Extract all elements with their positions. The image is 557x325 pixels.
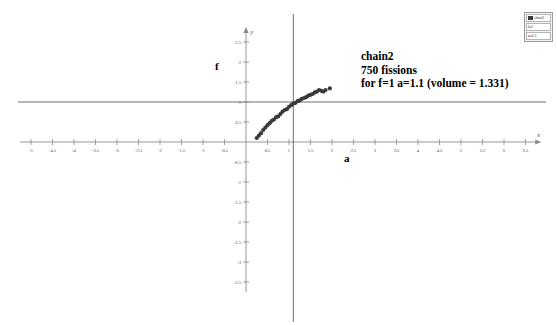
- y-tick-label: -3.5: [234, 280, 242, 285]
- legend-label-f: f=1: [528, 24, 533, 30]
- annotation-block: chain2 750 fissions for f=1 a=1.1 (volum…: [361, 50, 509, 91]
- y-axis-name: y: [250, 29, 254, 35]
- y-tick-label: -2.5: [234, 240, 242, 245]
- x-tick-label: 0.5: [265, 148, 271, 153]
- x-tick-label: 1: [288, 148, 291, 153]
- legend-label-a: a=1.1: [528, 33, 537, 39]
- y-tick-label: 2: [239, 60, 242, 65]
- x-axis-title: a: [344, 152, 350, 164]
- x-tick-label: 6.5: [523, 148, 529, 153]
- y-tick-label: -1: [237, 180, 242, 185]
- x-tick-label: 6: [503, 148, 506, 153]
- x-tick-label: 1.5: [308, 148, 314, 153]
- y-axis-arrow-icon: [243, 27, 248, 33]
- x-tick-label: -5: [29, 148, 34, 153]
- y-tick-label: 1.5: [235, 80, 241, 85]
- x-tick-label: -0.5: [221, 148, 229, 153]
- x-tick-label: -1.5: [178, 148, 186, 153]
- x-tick-label: -2: [158, 148, 163, 153]
- annotation-line-3: for f=1 a=1.1 (volume = 1.331): [361, 77, 509, 91]
- legend-box[interactable]: chain2 f=1 a=1.1: [524, 12, 553, 42]
- annotation-line-1: chain2: [361, 50, 509, 64]
- x-tick-label: -2.5: [135, 148, 143, 153]
- x-axis-name: x: [536, 132, 540, 138]
- x-tick-label: -3: [115, 148, 120, 153]
- x-tick-label: -1: [201, 148, 206, 153]
- y-tick-label: 2.5: [235, 40, 241, 45]
- x-tick-label: 3: [374, 148, 377, 153]
- legend-label-series: chain2: [534, 15, 544, 21]
- data-point-marker: [323, 88, 327, 92]
- y-tick-label: -1.5: [234, 200, 242, 205]
- y-tick-label: -3: [237, 260, 242, 265]
- x-axis-arrow-icon: [535, 139, 541, 144]
- x-tick-label: 2.5: [351, 148, 357, 153]
- y-tick-label: 0.5: [235, 120, 241, 125]
- scatter-plot: -5-4.5-4-3.5-3-2.5-2-1.5-1-0.50.511.522.…: [0, 0, 557, 325]
- x-tick-label: 3.5: [394, 148, 400, 153]
- x-tick-label: -3.5: [92, 148, 100, 153]
- x-tick-label: 2: [331, 148, 334, 153]
- y-tick-label: -2: [237, 220, 242, 225]
- x-tick-label: 4.5: [437, 148, 443, 153]
- legend-row-f[interactable]: f=1: [526, 23, 551, 31]
- legend-row-a[interactable]: a=1.1: [526, 32, 551, 40]
- x-tick-label: 5: [460, 148, 463, 153]
- y-axis-title: f: [215, 60, 219, 72]
- legend-row-series[interactable]: chain2: [526, 14, 551, 22]
- x-tick-label: -4.5: [49, 148, 57, 153]
- x-tick-label: 4: [417, 148, 420, 153]
- annotation-line-2: 750 fissions: [361, 64, 509, 78]
- data-point-marker: [328, 86, 332, 90]
- y-tick-label: -0.5: [234, 160, 242, 165]
- legend-swatch-icon: [528, 16, 533, 20]
- x-tick-label: 5.5: [480, 148, 486, 153]
- x-tick-label: -4: [72, 148, 77, 153]
